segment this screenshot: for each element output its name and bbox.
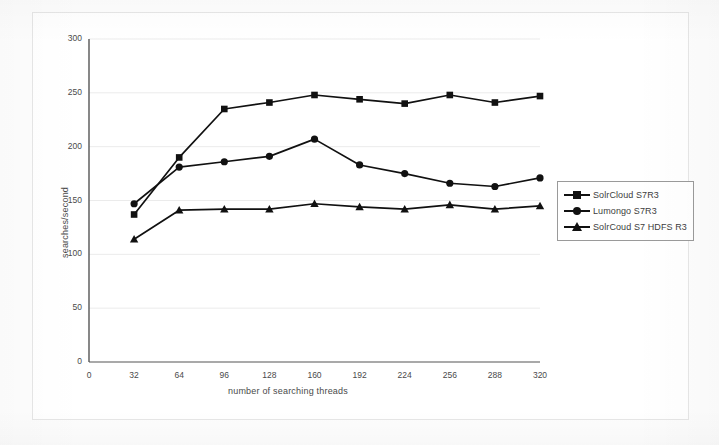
data-point-marker xyxy=(266,99,273,106)
data-point-marker xyxy=(401,100,408,107)
data-point-marker xyxy=(130,235,138,243)
x-tick-label: 96 xyxy=(209,370,239,380)
data-point-marker xyxy=(356,161,363,168)
series-line-2 xyxy=(134,204,540,240)
x-tick-label: 256 xyxy=(435,370,465,380)
data-point-marker xyxy=(131,211,138,218)
legend-item-0: SolrCloud S7R3 xyxy=(562,187,687,203)
data-point-marker xyxy=(492,99,499,106)
x-tick-label: 0 xyxy=(74,370,104,380)
x-tick-label: 224 xyxy=(390,370,420,380)
legend-item-2: SolrCoud S7 HDFS R3 xyxy=(562,219,687,235)
data-point-marker xyxy=(221,158,228,165)
legend-label: SolrCoud S7 HDFS R3 xyxy=(592,222,687,232)
x-axis-title: number of searching threads xyxy=(228,386,348,396)
x-tick-label: 64 xyxy=(164,370,194,380)
data-point-marker xyxy=(537,93,544,100)
y-tick-label: 250 xyxy=(56,87,82,97)
data-point-marker xyxy=(176,154,183,161)
y-tick-label: 300 xyxy=(56,33,82,43)
legend-marker-circle-icon xyxy=(562,204,592,218)
legend-label: Lumongo S7R3 xyxy=(592,206,657,216)
series-line-0 xyxy=(134,95,540,215)
legend-label: SolrCloud S7R3 xyxy=(592,190,659,200)
data-point-marker xyxy=(536,174,543,181)
data-point-marker xyxy=(311,136,318,143)
data-point-marker xyxy=(446,180,453,187)
data-point-marker xyxy=(311,92,318,99)
data-point-marker xyxy=(221,106,228,113)
data-point-marker xyxy=(356,96,363,103)
chart-figure: 050100150200250300 032649612816019222425… xyxy=(0,0,719,445)
chart-legend: SolrCloud S7R3Lumongo S7R3SolrCoud S7 HD… xyxy=(557,181,694,241)
x-tick-label: 32 xyxy=(119,370,149,380)
y-tick-label: 200 xyxy=(56,141,82,151)
data-point-marker xyxy=(491,183,498,190)
data-point-marker xyxy=(401,170,408,177)
series-group xyxy=(130,92,544,243)
data-point-marker xyxy=(131,200,138,207)
x-tick-label: 160 xyxy=(300,370,330,380)
data-point-marker xyxy=(176,164,183,171)
data-point-marker xyxy=(447,92,454,99)
legend-item-1: Lumongo S7R3 xyxy=(562,203,687,219)
x-tick-label: 288 xyxy=(480,370,510,380)
y-tick-label: 50 xyxy=(56,302,82,312)
x-tick-label: 192 xyxy=(345,370,375,380)
y-axis-title: searches/second xyxy=(60,187,70,258)
legend-marker-triangle-icon xyxy=(562,220,592,234)
series-line-1 xyxy=(134,139,540,204)
x-tick-label: 128 xyxy=(254,370,284,380)
y-tick-label: 0 xyxy=(56,356,82,366)
legend-marker-square-icon xyxy=(562,188,592,202)
x-tick-label: 320 xyxy=(525,370,555,380)
gridlines xyxy=(89,39,540,308)
data-point-marker xyxy=(266,153,273,160)
